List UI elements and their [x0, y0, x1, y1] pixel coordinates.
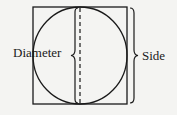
- side-brace: [130, 8, 138, 103]
- side-label: Side: [142, 49, 165, 62]
- diameter-brace: [71, 8, 78, 103]
- diameter-label: Diameter: [13, 46, 61, 59]
